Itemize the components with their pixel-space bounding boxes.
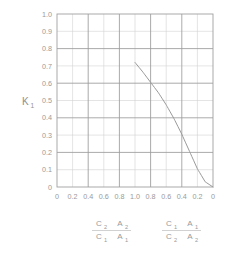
x-tick-label-5: 1.0	[130, 192, 140, 201]
y-tick-label-9: 0.1	[42, 165, 52, 174]
left-caption-denominator-c: C	[96, 232, 102, 241]
x-tick-label-0: 0	[55, 192, 59, 201]
x-tick-label-3: 0.6	[99, 192, 109, 201]
y-tick-label-10: 0	[48, 183, 52, 192]
x-tick-label-9: 0.2	[192, 192, 202, 201]
x-tick-label-7: 0.6	[161, 192, 171, 201]
left-caption-denominator-a-sub: 1	[125, 237, 128, 243]
y-axis-title: K	[22, 96, 29, 107]
y-tick-label-1: 0.9	[42, 27, 52, 36]
right-caption-numerator-c-sub: 1	[174, 224, 177, 230]
x-tick-label-10: 0	[211, 192, 215, 201]
right-caption-denominator-c: C	[166, 232, 172, 241]
y-tick-label-7: 0.3	[42, 131, 52, 140]
left-caption-numerator-c-sub: 2	[104, 224, 107, 230]
x-tick-label-2: 0.4	[83, 192, 93, 201]
y-tick-label-5: 0.5	[42, 96, 52, 105]
right-caption-denominator-a: A	[187, 232, 193, 241]
right-caption-denominator-c-sub: 2	[174, 237, 177, 243]
left-caption-numerator-a: A	[117, 219, 123, 228]
right-caption-numerator-a-sub: 1	[195, 224, 198, 230]
y-tick-label-0: 1.0	[42, 10, 52, 19]
left-caption-denominator-a: A	[117, 232, 123, 241]
x-tick-label-1: 0.2	[68, 192, 78, 201]
x-tick-label-4: 0.8	[114, 192, 124, 201]
k1-ratio-line-chart: 1.00.90.80.70.60.50.40.30.20.10 00.20.40…	[0, 0, 239, 255]
y-tick-label-8: 0.2	[42, 148, 52, 157]
y-tick-label-3: 0.7	[42, 62, 52, 71]
left-caption-numerator-c: C	[96, 219, 102, 228]
y-axis-title-subscript: 1	[31, 102, 35, 109]
right-caption-numerator-c: C	[166, 219, 172, 228]
x-tick-label-6: 0.8	[146, 192, 156, 201]
right-caption-numerator-a: A	[187, 219, 193, 228]
chart-figure: 1.00.90.80.70.60.50.40.30.20.10 00.20.40…	[0, 0, 239, 255]
y-tick-label-2: 0.8	[42, 44, 52, 53]
right-caption-denominator-a-sub: 2	[195, 237, 198, 243]
left-caption-numerator-a-sub: 2	[125, 224, 128, 230]
y-tick-label-6: 0.4	[42, 113, 52, 122]
x-tick-label-8: 0.4	[177, 192, 187, 201]
y-tick-label-4: 0.6	[42, 79, 52, 88]
left-caption-denominator-c-sub: 1	[104, 237, 107, 243]
